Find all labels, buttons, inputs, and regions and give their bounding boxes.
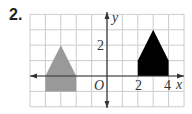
image-pentagon — [138, 30, 169, 76]
y-tick-2: 2 — [97, 38, 104, 53]
y-axis-label: y — [110, 10, 119, 25]
x-tick-4: 4 — [164, 78, 171, 93]
coordinate-plane: y x O 2 2 4 — [0, 0, 192, 114]
y-axis-up-arrow-icon — [105, 12, 110, 19]
x-axis-label: x — [175, 77, 183, 92]
x-axis-left-arrow-icon — [30, 74, 37, 79]
x-tick-2: 2 — [135, 78, 142, 93]
preimage-pentagon — [45, 45, 76, 91]
origin-label: O — [94, 78, 104, 93]
